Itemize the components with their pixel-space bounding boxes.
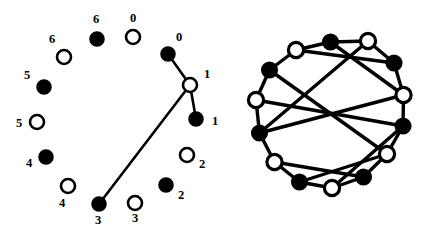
vertex-label: 0 xyxy=(130,11,136,25)
vertex-label: 4 xyxy=(26,156,33,170)
left-panel-nodes xyxy=(30,30,203,211)
left-panel-edges xyxy=(99,54,196,204)
vertex-label: 3 xyxy=(132,211,138,225)
graph-node-hollow xyxy=(324,180,339,195)
figure-container: 01122334455660 xyxy=(0,0,441,234)
graph-node-filled xyxy=(386,55,401,70)
vertex-label: 0 xyxy=(176,30,182,44)
vertex-label: 1 xyxy=(204,67,210,81)
graph-node-filled xyxy=(37,80,51,94)
graph-node-filled xyxy=(161,47,175,61)
vertex-label: 2 xyxy=(178,188,184,202)
vertex-label: 6 xyxy=(49,32,55,46)
vertex-label: 1 xyxy=(212,114,218,128)
vertex-label: 5 xyxy=(24,68,30,82)
graph-node-hollow xyxy=(180,148,194,162)
graph-node-hollow xyxy=(288,42,303,57)
left-panel-vertex-labels: 01122334455660 xyxy=(16,11,218,227)
graph-node-filled xyxy=(189,112,203,126)
graph-node-filled xyxy=(252,125,267,140)
left-panel-svg: 01122334455660 xyxy=(0,0,220,234)
left-panel: 01122334455660 xyxy=(0,0,220,234)
graph-node-hollow xyxy=(248,92,263,107)
graph-edge xyxy=(99,85,190,204)
vertex-label: 4 xyxy=(59,196,66,210)
graph-node-hollow xyxy=(183,78,197,92)
graph-node-hollow xyxy=(396,87,411,102)
right-panel-svg xyxy=(220,0,441,234)
graph-node-hollow xyxy=(128,196,142,210)
graph-node-filled xyxy=(262,62,277,77)
graph-node-hollow xyxy=(61,179,75,193)
graph-node-filled xyxy=(323,34,338,49)
graph-node-hollow xyxy=(30,115,44,129)
vertex-label: 2 xyxy=(199,157,205,171)
graph-node-filled xyxy=(92,197,106,211)
right-panel xyxy=(220,0,441,234)
graph-node-hollow xyxy=(267,154,282,169)
graph-edge xyxy=(270,70,388,154)
graph-node-filled xyxy=(292,174,307,189)
graph-node-filled xyxy=(395,118,410,133)
graph-node-filled xyxy=(90,32,104,46)
graph-node-filled xyxy=(159,178,173,192)
graph-node-filled xyxy=(39,150,53,164)
graph-node-hollow xyxy=(126,30,140,44)
vertex-label: 6 xyxy=(93,12,99,26)
vertex-label: 3 xyxy=(95,213,101,227)
graph-node-hollow xyxy=(379,146,394,161)
graph-node-filled xyxy=(356,169,371,184)
vertex-label: 5 xyxy=(16,116,22,130)
graph-node-hollow xyxy=(360,33,375,48)
graph-node-hollow xyxy=(57,50,71,64)
